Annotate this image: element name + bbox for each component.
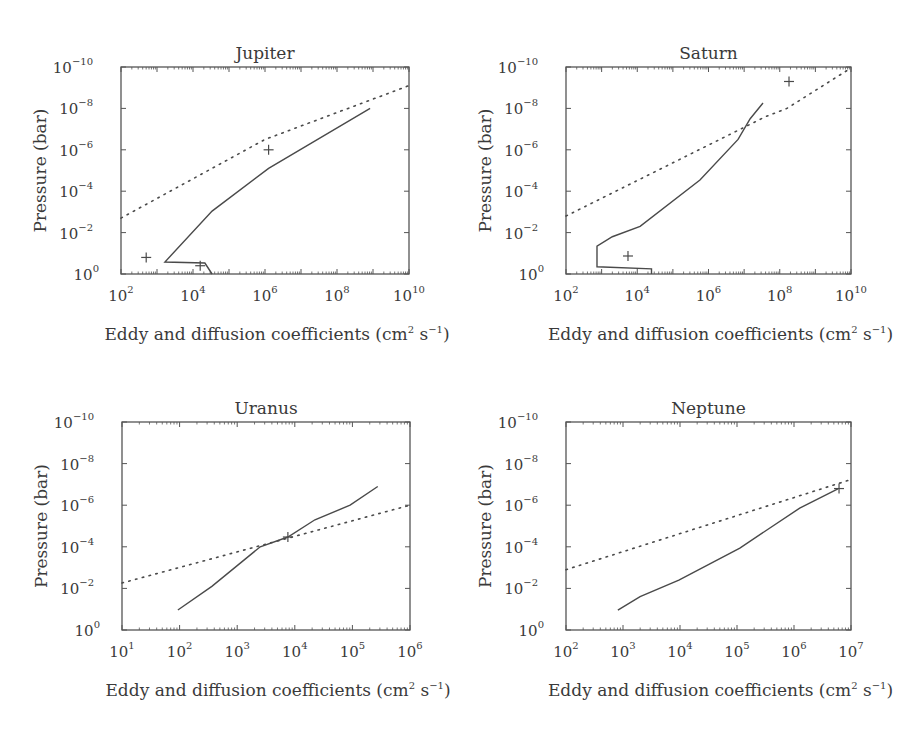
- diffusion-line: [122, 505, 410, 583]
- y-tick-label: 10−8: [504, 97, 538, 118]
- plus-marker: [784, 76, 794, 86]
- x-axis-label: Eddy and diffusion coefficients (cm2 s−1…: [104, 324, 449, 344]
- y-tick-label: 10−6: [504, 139, 538, 160]
- x-tick-label: 103: [224, 640, 249, 661]
- y-tick-label: 10−2: [60, 577, 94, 598]
- x-tick-label: 1010: [835, 284, 867, 305]
- chart-title: Uranus: [234, 398, 297, 418]
- x-tick-label: 106: [397, 640, 422, 661]
- y-tick-label: 10−2: [504, 222, 538, 243]
- y-tick-label: 10−10: [53, 56, 93, 77]
- y-tick-label: 10−8: [59, 97, 93, 118]
- diffusion-line: [121, 86, 409, 218]
- panel-jupiter: Jupiter102104106108101010−1010−810−610−4…: [30, 43, 450, 344]
- chart-title: Jupiter: [233, 43, 295, 63]
- panel-neptune: Neptune10210310410510610710−1010−810−610…: [475, 398, 893, 700]
- x-tick-label: 102: [108, 284, 133, 305]
- x-tick-label: 107: [838, 640, 863, 661]
- chart-title: Saturn: [679, 43, 738, 63]
- plus-marker: [834, 484, 844, 494]
- y-axis-label: Pressure (bar): [31, 464, 51, 588]
- x-tick-label: 101: [109, 640, 134, 661]
- x-tick-label: 103: [610, 640, 635, 661]
- x-tick-label: 104: [667, 640, 692, 661]
- diffusion-line: [566, 68, 851, 216]
- y-axis-label: Pressure (bar): [475, 108, 495, 232]
- y-tick-label: 10−6: [504, 494, 538, 515]
- y-tick-label: 10−4: [504, 180, 538, 201]
- plot-frame: [122, 422, 410, 630]
- x-tick-label: 106: [781, 640, 806, 661]
- y-tick-label: 10−6: [59, 139, 93, 160]
- y-tick-label: 100: [519, 263, 544, 284]
- x-tick-label: 104: [625, 284, 650, 305]
- x-tick-label: 102: [553, 284, 578, 305]
- x-tick-label: 1010: [393, 284, 425, 305]
- plus-marker: [141, 252, 151, 262]
- y-tick-label: 100: [519, 619, 544, 640]
- x-tick-label: 104: [180, 284, 205, 305]
- x-tick-label: 105: [724, 640, 749, 661]
- y-tick-label: 10−6: [60, 494, 94, 515]
- plot-frame: [566, 422, 851, 630]
- y-axis-label: Pressure (bar): [30, 108, 50, 232]
- chart-title: Neptune: [671, 398, 746, 418]
- y-tick-label: 10−2: [59, 222, 93, 243]
- y-tick-label: 10−4: [504, 536, 538, 557]
- y-tick-label: 10−10: [498, 56, 538, 77]
- x-tick-label: 106: [252, 284, 277, 305]
- y-axis-label: Pressure (bar): [475, 464, 495, 588]
- x-tick-label: 102: [167, 640, 192, 661]
- x-tick-label: 108: [324, 284, 349, 305]
- x-axis-label: Eddy and diffusion coefficients (cm2 s−1…: [548, 680, 893, 700]
- x-axis-label: Eddy and diffusion coefficients (cm2 s−1…: [105, 680, 450, 700]
- y-tick-label: 10−2: [504, 577, 538, 598]
- plus-marker: [623, 251, 633, 261]
- diffusion-line: [566, 480, 849, 569]
- x-axis-label: Eddy and diffusion coefficients (cm2 s−1…: [548, 324, 893, 344]
- eddy-line: [165, 108, 370, 274]
- y-tick-label: 100: [75, 619, 100, 640]
- panel-saturn: Saturn102104106108101010−1010−810−610−41…: [475, 43, 893, 344]
- eddy-line: [618, 489, 838, 610]
- plus-marker: [264, 145, 274, 155]
- plus-marker: [283, 532, 293, 542]
- eddy-line: [178, 486, 378, 610]
- y-tick-label: 10−8: [60, 453, 94, 474]
- y-tick-label: 10−10: [54, 411, 94, 432]
- y-tick-label: 100: [74, 263, 99, 284]
- figure: Jupiter102104106108101010−1010−810−610−4…: [0, 0, 911, 733]
- y-tick-label: 10−4: [60, 536, 94, 557]
- x-tick-label: 104: [282, 640, 307, 661]
- x-tick-label: 106: [696, 284, 721, 305]
- x-tick-label: 102: [553, 640, 578, 661]
- y-tick-label: 10−4: [59, 180, 93, 201]
- panel-uranus: Uranus10110210310410510610−1010−810−610−…: [31, 398, 451, 700]
- y-tick-label: 10−8: [504, 453, 538, 474]
- y-tick-label: 10−10: [498, 411, 538, 432]
- x-tick-label: 105: [340, 640, 365, 661]
- x-tick-label: 108: [767, 284, 792, 305]
